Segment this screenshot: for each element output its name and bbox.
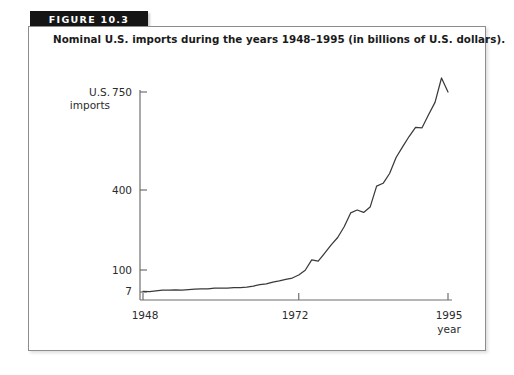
- y-tick-label-100: 100: [92, 264, 132, 276]
- figure-container: FIGURE 10.3 Nominal U.S. imports during …: [0, 0, 514, 375]
- x-tick-label-1948: 1948: [125, 309, 165, 321]
- y-axis-label-line2: imports: [54, 99, 110, 111]
- figure-caption: Nominal U.S. imports during the years 19…: [53, 33, 473, 45]
- x-tick-label-1995: 1995: [429, 309, 469, 321]
- x-tick-label-1972: 1972: [275, 309, 315, 321]
- y-tick-label-7: 7: [92, 285, 132, 297]
- y-tick-label-400: 400: [92, 184, 132, 196]
- figure-number-label: FIGURE 10.3: [49, 14, 129, 25]
- y-tick-label-750: 750: [92, 86, 132, 98]
- x-axis-label: year: [429, 323, 469, 335]
